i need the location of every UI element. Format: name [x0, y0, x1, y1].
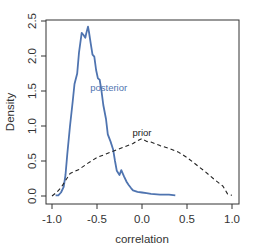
prior-label: prior	[132, 127, 151, 138]
x-tick-label: 0.0	[134, 213, 150, 225]
x-tick-label: 1.0	[224, 213, 240, 225]
chart-canvas: -1.0-0.50.00.51.0 0.00.51.01.52.02.5 pos…	[0, 0, 256, 251]
y-tick-label: 0.0	[26, 188, 38, 204]
y-tick-label: 0.5	[26, 153, 38, 169]
x-axis-title: correlation	[115, 233, 169, 245]
posterior-line	[56, 27, 176, 196]
plot-area-frame	[46, 20, 239, 204]
series-layer: posteriorprior	[52, 27, 232, 196]
y-tick-label: 1.5	[26, 83, 38, 99]
y-tick-label: 2.5	[26, 13, 38, 29]
x-tick-label: -1.0	[42, 213, 62, 225]
y-axis: 0.00.51.01.52.02.5	[26, 13, 46, 204]
y-axis-title: Density	[4, 93, 16, 132]
density-chart: -1.0-0.50.00.51.0 0.00.51.01.52.02.5 pos…	[0, 0, 256, 251]
y-tick-label: 1.0	[26, 118, 38, 134]
x-tick-label: -0.5	[87, 213, 107, 225]
x-tick-label: 0.5	[179, 213, 195, 225]
prior-line	[52, 139, 232, 196]
x-axis: -1.0-0.50.00.51.0	[42, 204, 240, 225]
y-tick-label: 2.0	[26, 48, 38, 64]
posterior-label: posterior	[90, 82, 127, 93]
